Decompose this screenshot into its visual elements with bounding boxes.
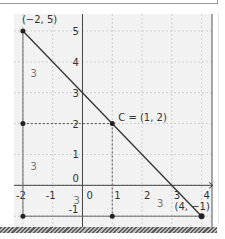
x-tick-label: -2 [16,190,26,201]
side-length-label: 3 [157,198,163,209]
x-tick-label: 4 [204,190,210,201]
side-length-label: 3 [74,195,80,206]
x-tick-label: -1 [46,190,56,201]
x-tick-label: 1 [114,190,120,201]
hatched-divider [0,227,217,233]
point-label-c: C = (1, 2) [118,112,167,123]
point-a [20,28,25,33]
plot-background [14,14,212,227]
x-tick-label: 3 [174,190,180,201]
y-tick-label: 1 [72,149,78,160]
y-tick-label: 3 [72,88,78,99]
y-tick-label: 4 [72,57,78,68]
coordinate-plot: -2-101234-10123453333(−2, 5)C = (1, 2)(4… [0,0,225,239]
y-tick-label: 5 [72,26,78,37]
point-p2 [20,214,25,219]
side-length-label: 3 [30,68,36,79]
side-length-label: 3 [30,161,36,172]
point-p1 [20,121,25,126]
x-tick-label: 2 [144,190,150,201]
y-tick-label: 0 [72,173,78,184]
point-label-a: (−2, 5) [22,14,57,25]
point-b [199,213,205,219]
x-tick-label: 0 [86,190,92,201]
point-p3 [110,214,115,219]
point-label-b: (4, −1) [175,201,210,212]
point-c [110,121,115,126]
